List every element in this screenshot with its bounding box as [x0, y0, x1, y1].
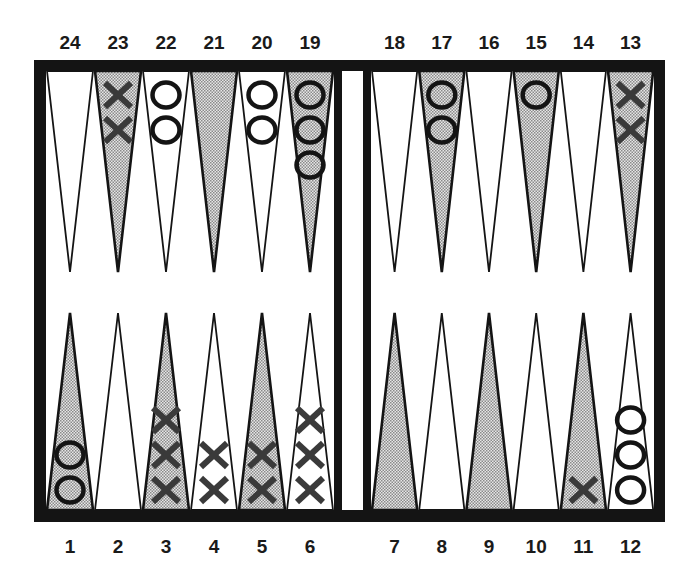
points-layer: [47, 71, 653, 510]
point-19[interactable]: [287, 71, 333, 272]
checkers-layer: [57, 83, 645, 503]
frame-right: [654, 60, 665, 522]
point-1[interactable]: [47, 313, 93, 510]
point-14[interactable]: [561, 71, 606, 272]
point-20[interactable]: [239, 71, 285, 272]
point-15[interactable]: [514, 71, 559, 272]
point-8[interactable]: [419, 313, 464, 510]
backgammon-board: [0, 0, 689, 576]
point-23[interactable]: [95, 71, 141, 272]
point-6[interactable]: [287, 313, 333, 510]
point-3[interactable]: [143, 313, 189, 510]
bar-right-edge: [363, 60, 371, 522]
point-10[interactable]: [514, 313, 559, 510]
point-11[interactable]: [561, 313, 606, 510]
point-13[interactable]: [608, 71, 653, 272]
frame-top: [34, 60, 665, 71]
point-5[interactable]: [239, 313, 285, 510]
point-12[interactable]: [608, 313, 653, 510]
point-24[interactable]: [47, 71, 93, 272]
point-2[interactable]: [95, 313, 141, 510]
point-21[interactable]: [191, 71, 237, 272]
point-17[interactable]: [419, 71, 464, 272]
point-16[interactable]: [466, 71, 511, 272]
bar-left-edge: [334, 60, 342, 522]
point-18[interactable]: [372, 71, 417, 272]
point-4[interactable]: [191, 313, 237, 510]
point-22[interactable]: [143, 71, 189, 272]
point-7[interactable]: [372, 313, 417, 510]
frame-left: [34, 60, 46, 522]
point-9[interactable]: [466, 313, 511, 510]
frame-bottom: [34, 510, 665, 522]
